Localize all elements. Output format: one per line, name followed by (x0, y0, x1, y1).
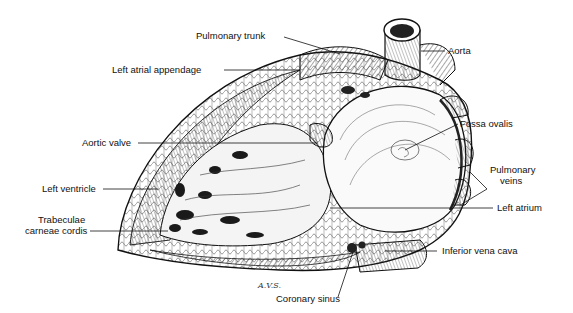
inferior-vena-cava (355, 240, 427, 272)
label-pulmonary-veins-line2: veins (500, 175, 522, 186)
label-left-ventricle: Left ventricle (42, 183, 96, 194)
label-inferior-vena-cava: Inferior vena cava (442, 245, 518, 256)
label-fossa-ovalis: Fossa ovalis (460, 118, 513, 129)
label-trabeculae-line2: carneae cordis (25, 225, 87, 236)
label-aorta: Aorta (448, 45, 471, 56)
heart-illustration: A.V.S. (0, 0, 573, 313)
label-pulmonary-veins-line1: Pulmonary (490, 164, 535, 175)
label-coronary-sinus: Coronary sinus (276, 293, 340, 304)
label-left-atrium: Left atrium (497, 202, 542, 213)
label-left-atrial-appendage: Left atrial appendage (112, 64, 201, 75)
left-atrium (323, 86, 465, 232)
label-trabeculae-line1: Trabeculae (38, 214, 85, 225)
label-aortic-valve: Aortic valve (82, 137, 131, 148)
aorta (384, 19, 455, 85)
artist-signature: A.V.S. (257, 281, 281, 290)
label-pulmonary-trunk: Pulmonary trunk (196, 30, 265, 41)
